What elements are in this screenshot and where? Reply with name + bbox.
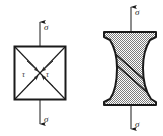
sigma-top-label-left: σ	[44, 22, 49, 32]
sigma-bottom-label-left: σ	[44, 114, 49, 124]
sigma-top-label-right: σ	[135, 7, 140, 17]
diagram-canvas: σ σ τ τ	[0, 0, 163, 136]
sigma-bottom-label-right: σ	[135, 119, 140, 129]
figure-root: σ σ τ τ	[0, 0, 163, 136]
